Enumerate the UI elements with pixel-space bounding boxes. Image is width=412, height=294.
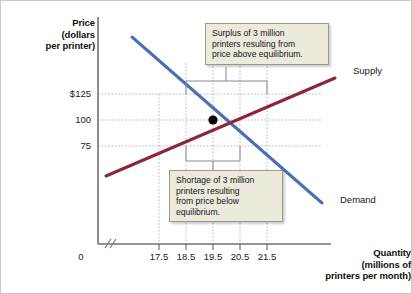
x-axis-title: Quantity (millions of printers per month…: [297, 247, 411, 282]
equilibrium-point: [208, 115, 217, 124]
shortage-annotation-box: Shortage of 3 million printers resulting…: [169, 170, 283, 222]
y-axis-title: Price (dollars per printer): [21, 17, 95, 52]
shortage-text-line-2: printers resulting: [176, 186, 277, 197]
surplus-text-line-2: printers resulting from: [212, 39, 323, 50]
x-axis-title-line-1: Quantity: [297, 247, 411, 259]
supply-curve-label: Supply: [353, 65, 382, 76]
supply-demand-figure: Price (dollars per printer) Quantity (mi…: [0, 0, 412, 294]
y-axis-title-line-1: Price: [21, 17, 95, 29]
x-tick-marks: [159, 244, 267, 250]
surplus-text-line-3: price above equilibrium.: [212, 49, 323, 60]
x-tick-label-0: 0: [64, 251, 98, 262]
surplus-annotation-box: Surplus of 3 million printers resulting …: [205, 23, 329, 65]
y-tick-label-125: $125: [47, 88, 91, 99]
x-axis-title-line-2: (millions of: [297, 259, 411, 271]
surplus-bracket: [186, 67, 267, 94]
shortage-text-line-4: equilibrium.: [176, 207, 277, 218]
surplus-text-line-1: Surplus of 3 million: [212, 28, 323, 39]
y-tick-label-75: 75: [47, 140, 91, 151]
y-axis-title-line-3: per printer): [21, 40, 95, 52]
y-tick-label-100: 100: [47, 114, 91, 125]
shortage-text-line-1: Shortage of 3 million: [176, 175, 277, 186]
y-axis-title-line-2: (dollars: [21, 29, 95, 41]
x-tick-label-21-5: 21.5: [250, 251, 284, 262]
x-axis-title-line-3: printers per month): [297, 270, 411, 282]
demand-curve-label: Demand: [340, 194, 376, 205]
shortage-text-line-3: from price below: [176, 196, 277, 207]
